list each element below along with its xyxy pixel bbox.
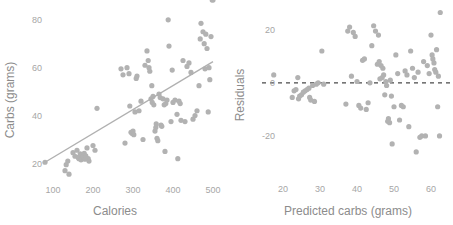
y-tick-label: 20 (265, 25, 275, 35)
data-point (149, 83, 154, 88)
scatter-plot-calories-vs-carbs: 100200300400500 20406080 Calories Carbs … (0, 0, 230, 225)
data-point (397, 117, 402, 122)
y-tick-label: 0 (270, 78, 275, 88)
x-tick-label: 30 (315, 184, 325, 194)
data-point (362, 56, 367, 61)
data-point (371, 23, 376, 28)
data-point (404, 72, 409, 77)
x-tick-label: 100 (45, 185, 60, 195)
data-point (62, 168, 67, 173)
data-point (408, 48, 413, 53)
data-point (208, 34, 213, 39)
data-point (84, 145, 89, 150)
y-tick-label: -20 (262, 131, 275, 141)
data-point (349, 74, 354, 79)
data-point (159, 124, 164, 129)
data-point (196, 83, 201, 88)
data-point (358, 105, 363, 110)
data-point (174, 112, 179, 117)
data-point (343, 101, 348, 106)
data-point (393, 52, 398, 57)
data-point (415, 70, 420, 75)
data-point (144, 48, 149, 53)
data-point (164, 97, 169, 102)
data-point (435, 104, 440, 109)
x-axis-title: Predicted carbs (grams) (284, 204, 412, 218)
x-tick-label: 400 (165, 185, 180, 195)
data-point (367, 80, 372, 85)
data-point (122, 140, 127, 145)
data-point (151, 102, 156, 107)
data-point (312, 99, 317, 104)
data-point (271, 72, 276, 77)
data-point (316, 80, 321, 85)
data-point (146, 58, 151, 63)
x-tick-label: 50 (389, 184, 399, 194)
data-point (182, 119, 187, 124)
x-tick-label: 20 (278, 184, 288, 194)
data-point (438, 10, 443, 15)
x-tick-label: 60 (426, 184, 436, 194)
data-point (376, 32, 381, 37)
data-point (380, 66, 385, 71)
data-point (170, 67, 175, 72)
data-point (147, 69, 152, 74)
x-axis-tick-labels: 2030405060 (278, 184, 436, 194)
data-point (412, 75, 417, 80)
data-point (120, 72, 125, 77)
regression-figure: 100200300400500 20406080 Calories Carbs … (0, 0, 453, 225)
data-point (414, 149, 419, 154)
data-point (206, 109, 211, 114)
data-point (384, 83, 389, 88)
data-point (140, 137, 145, 142)
data-point (202, 41, 207, 46)
data-point (131, 132, 136, 137)
data-point (406, 124, 411, 129)
x-tick-label: 500 (205, 185, 220, 195)
data-point (162, 149, 167, 154)
y-tick-label: 60 (32, 63, 42, 73)
data-point (428, 32, 433, 37)
data-point (388, 78, 393, 83)
data-point (381, 72, 386, 77)
data-point (136, 108, 141, 113)
y-tick-label: 40 (32, 111, 42, 121)
data-point (395, 71, 400, 76)
data-point (207, 77, 212, 82)
data-point (134, 73, 139, 78)
regression-line (45, 62, 213, 163)
data-point (401, 104, 406, 109)
data-point (166, 44, 171, 49)
data-point (410, 66, 415, 71)
data-point (192, 113, 197, 118)
data-point (203, 32, 208, 37)
data-point (353, 34, 358, 39)
data-point-group (42, 0, 215, 177)
data-point (126, 71, 131, 76)
data-point-group (271, 10, 443, 155)
residual-plot-predicted-carbs: 2030405060 -20020 Predicted carbs (grams… (230, 0, 453, 225)
data-point (194, 108, 199, 113)
data-point (66, 172, 71, 177)
data-point (65, 158, 70, 163)
x-axis-title: Calories (93, 204, 137, 218)
data-point (175, 156, 180, 161)
data-point (198, 21, 203, 26)
data-point (186, 60, 191, 65)
data-point (204, 46, 209, 51)
data-point (168, 119, 173, 124)
x-tick-label: 40 (352, 184, 362, 194)
data-point (92, 148, 97, 153)
data-point (436, 74, 441, 79)
data-point (118, 66, 123, 71)
data-point (434, 47, 439, 52)
data-point (86, 158, 91, 163)
data-point (347, 24, 352, 29)
data-point (382, 92, 387, 97)
data-point (180, 58, 185, 63)
data-point (425, 63, 430, 68)
x-tick-label: 200 (85, 185, 100, 195)
data-point (437, 133, 442, 138)
data-point (155, 138, 160, 143)
y-axis-tick-labels: 20406080 (32, 15, 42, 169)
